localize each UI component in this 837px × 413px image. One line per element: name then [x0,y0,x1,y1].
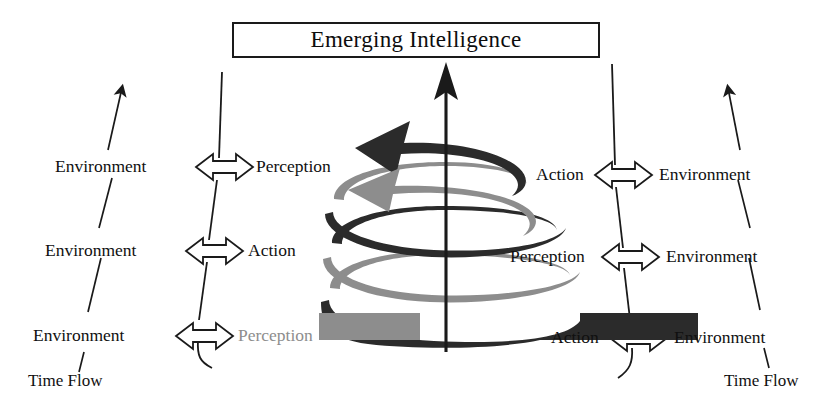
right-row-0-environment: Environment [659,166,750,184]
right-time-flow-line [728,88,769,368]
spiral-graphic [319,121,698,348]
left-row-2-perception: Perception [238,327,313,345]
double-arrow-icon [186,238,243,264]
left-arrow-group [176,154,253,349]
double-arrow-icon [176,323,233,349]
diagram-canvas [0,0,837,413]
left-row-1-action: Action [248,242,296,260]
double-arrow-icon [602,244,659,270]
left-row-0-environment: Environment [55,158,146,176]
right-row-1-environment: Environment [666,248,757,266]
left-time-flow-label: Time Flow [28,372,102,389]
right-row-2-environment: Environment [674,329,765,347]
spiral-arrow-light [348,168,536,236]
double-arrow-icon [595,162,652,188]
title-box: Emerging Intelligence [232,22,600,58]
right-row-2-action: Action [551,329,599,347]
left-agent-line [198,72,222,368]
left-row-0-perception: Perception [256,158,331,176]
right-row-0-action: Action [536,166,584,184]
double-arrow-icon [196,154,253,180]
right-row-1-perception: Perception [510,248,585,266]
right-time-flow-label: Time Flow [724,372,798,389]
page-title: Emerging Intelligence [311,27,522,53]
left-row-2-environment: Environment [33,327,124,345]
spiral-base-bar-light2 [319,313,420,340]
left-row-1-environment: Environment [45,242,136,260]
